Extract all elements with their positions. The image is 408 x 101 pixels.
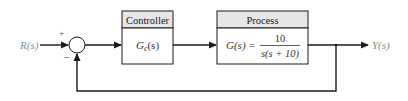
process-block: Process G(s) = 10 s(s + 10) [217,11,308,64]
summing-junction [69,37,85,53]
controller-title: Controller [126,15,170,26]
process-numerator: 10 [275,33,286,44]
input-label: R(s) [19,39,39,52]
minus-sign: − [64,52,70,63]
controller-block: Controller Gc(s) [122,11,173,64]
process-title: Process [246,15,278,26]
process-lhs: G(s) = [226,39,256,52]
controller-transfer-function: Gc(s) [136,39,159,53]
output-label: Y(s) [372,39,390,52]
process-denominator: s(s + 10) [261,48,300,60]
plus-sign: + [59,28,64,38]
block-diagram: R(s) + − Controller Gc(s) Process G(s) =… [0,0,408,101]
